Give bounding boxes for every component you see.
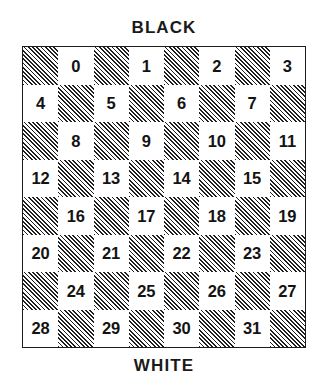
- board-square-hatched[interactable]: [129, 235, 164, 273]
- board-square-27[interactable]: 27: [270, 272, 305, 310]
- board-square-hatched[interactable]: [164, 197, 199, 235]
- board-square-hatched[interactable]: [94, 47, 129, 85]
- square-number: 12: [31, 170, 49, 187]
- board-square-9[interactable]: 9: [129, 122, 164, 160]
- square-number: 1: [142, 58, 151, 75]
- board-square-hatched[interactable]: [23, 197, 58, 235]
- board-square-hatched[interactable]: [270, 310, 305, 348]
- square-number: 14: [172, 170, 190, 187]
- board-square-0[interactable]: 0: [58, 47, 93, 85]
- square-number: 16: [67, 208, 85, 225]
- square-number: 27: [278, 283, 296, 300]
- board-square-2[interactable]: 2: [199, 47, 234, 85]
- board-square-16[interactable]: 16: [58, 197, 93, 235]
- square-number: 10: [208, 133, 226, 150]
- board-square-23[interactable]: 23: [235, 235, 270, 273]
- square-number: 6: [177, 95, 186, 112]
- board-square-hatched[interactable]: [164, 47, 199, 85]
- square-number: 9: [142, 133, 151, 150]
- square-number: 11: [279, 133, 296, 150]
- board-square-10[interactable]: 10: [199, 122, 234, 160]
- board-square-22[interactable]: 22: [164, 235, 199, 273]
- board-square-6[interactable]: 6: [164, 85, 199, 123]
- board-square-hatched[interactable]: [23, 47, 58, 85]
- board-square-hatched[interactable]: [270, 85, 305, 123]
- square-number: 29: [102, 320, 120, 337]
- board-square-hatched[interactable]: [94, 272, 129, 310]
- square-number: 2: [212, 58, 221, 75]
- board-square-hatched[interactable]: [94, 122, 129, 160]
- board-square-hatched[interactable]: [235, 122, 270, 160]
- board-square-1[interactable]: 1: [129, 47, 164, 85]
- square-number: 25: [137, 283, 155, 300]
- square-number: 18: [208, 208, 226, 225]
- square-number: 13: [102, 170, 120, 187]
- board-square-hatched[interactable]: [270, 160, 305, 198]
- white-side-label: WHITE: [0, 356, 328, 376]
- board-square-28[interactable]: 28: [23, 310, 58, 348]
- square-number: 3: [283, 58, 292, 75]
- board-square-4[interactable]: 4: [23, 85, 58, 123]
- square-number: 20: [31, 245, 49, 262]
- square-number: 17: [137, 208, 155, 225]
- board-square-25[interactable]: 25: [129, 272, 164, 310]
- board-square-12[interactable]: 12: [23, 160, 58, 198]
- board-square-hatched[interactable]: [235, 272, 270, 310]
- board-square-18[interactable]: 18: [199, 197, 234, 235]
- board-square-hatched[interactable]: [270, 235, 305, 273]
- board-square-29[interactable]: 29: [94, 310, 129, 348]
- board-square-hatched[interactable]: [23, 272, 58, 310]
- square-number: 15: [243, 170, 261, 187]
- board-square-19[interactable]: 19: [270, 197, 305, 235]
- board-square-7[interactable]: 7: [235, 85, 270, 123]
- board-square-hatched[interactable]: [164, 272, 199, 310]
- board-square-31[interactable]: 31: [235, 310, 270, 348]
- board-square-5[interactable]: 5: [94, 85, 129, 123]
- square-number: 30: [172, 320, 190, 337]
- board-square-30[interactable]: 30: [164, 310, 199, 348]
- board-square-hatched[interactable]: [235, 197, 270, 235]
- board-square-15[interactable]: 15: [235, 160, 270, 198]
- square-number: 23: [243, 245, 261, 262]
- board-square-hatched[interactable]: [129, 160, 164, 198]
- square-number: 7: [248, 95, 257, 112]
- square-number: 31: [243, 320, 261, 337]
- board-square-hatched[interactable]: [58, 310, 93, 348]
- black-side-label: BLACK: [0, 18, 328, 38]
- board-square-26[interactable]: 26: [199, 272, 234, 310]
- board-square-hatched[interactable]: [94, 197, 129, 235]
- board-square-hatched[interactable]: [23, 122, 58, 160]
- board-square-hatched[interactable]: [235, 47, 270, 85]
- board-square-17[interactable]: 17: [129, 197, 164, 235]
- board-square-hatched[interactable]: [199, 85, 234, 123]
- board-square-14[interactable]: 14: [164, 160, 199, 198]
- square-number: 28: [31, 320, 49, 337]
- board-square-hatched[interactable]: [58, 85, 93, 123]
- square-number: 0: [71, 58, 80, 75]
- square-number: 19: [278, 208, 296, 225]
- board-square-8[interactable]: 8: [58, 122, 93, 160]
- board-square-hatched[interactable]: [199, 310, 234, 348]
- board-square-hatched[interactable]: [58, 235, 93, 273]
- board-square-hatched[interactable]: [129, 85, 164, 123]
- board-square-hatched[interactable]: [58, 160, 93, 198]
- square-number: 26: [208, 283, 226, 300]
- board-square-hatched[interactable]: [164, 122, 199, 160]
- board-square-hatched[interactable]: [199, 160, 234, 198]
- square-number: 22: [172, 245, 190, 262]
- board-square-20[interactable]: 20: [23, 235, 58, 273]
- square-number: 21: [102, 245, 120, 262]
- board-square-hatched[interactable]: [199, 235, 234, 273]
- board-square-3[interactable]: 3: [270, 47, 305, 85]
- square-number: 8: [71, 133, 80, 150]
- board-square-13[interactable]: 13: [94, 160, 129, 198]
- board-square-21[interactable]: 21: [94, 235, 129, 273]
- board-square-hatched[interactable]: [129, 310, 164, 348]
- square-number: 24: [67, 283, 85, 300]
- board-square-24[interactable]: 24: [58, 272, 93, 310]
- board-square-11[interactable]: 11: [270, 122, 305, 160]
- square-number: 5: [107, 95, 116, 112]
- checkerboard-figure: BLACK 0123456789101112131415161718192021…: [0, 0, 328, 392]
- checkerboard-grid: 0123456789101112131415161718192021222324…: [22, 46, 306, 348]
- square-number: 4: [36, 95, 45, 112]
